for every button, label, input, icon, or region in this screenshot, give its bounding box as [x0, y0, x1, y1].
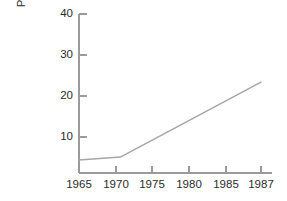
y-tick-label-30: 30	[50, 49, 73, 61]
x-tick-label-1975: 1975	[139, 179, 165, 191]
chart-plot-area	[0, 0, 287, 201]
y-tick-label-20: 20	[50, 90, 73, 102]
x-tick-label-1987: 1987	[248, 179, 274, 191]
x-tick-label-1980: 1980	[176, 179, 202, 191]
axes-group	[79, 14, 272, 173]
cesarean-section-line-chart: Percentage of Births by Cesarean Section…	[0, 0, 287, 201]
x-tick-label-1965: 1965	[66, 179, 92, 191]
cesarean-percentage-line	[79, 82, 261, 160]
x-tick-label-1970: 1970	[103, 179, 129, 191]
y-tick-label-40: 40	[50, 8, 73, 20]
y-tick-label-10: 10	[50, 131, 73, 143]
x-tick-label-1985: 1985	[213, 179, 239, 191]
data-series-group	[79, 82, 261, 160]
